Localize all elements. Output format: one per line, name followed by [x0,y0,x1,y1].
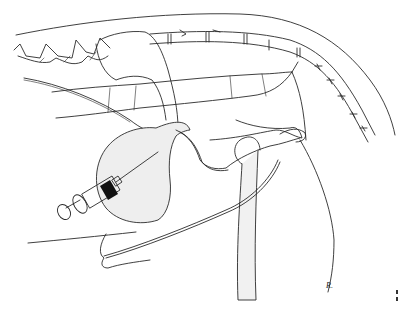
bladder [96,122,190,222]
artist-signature: R. [326,281,333,290]
ventral-wall [28,232,136,243]
pelvis-outline [176,130,300,169]
abdominal-curve [300,140,334,292]
femur-shaft [237,150,258,300]
spiny-vertebrae [14,38,110,64]
vertebrae [168,30,367,131]
anatomy-drawing [0,0,401,311]
colon-upper [52,72,292,92]
kidney-outline [100,31,178,128]
kidney-inner [96,44,166,120]
illustration-canvas: R. [0,0,401,311]
prepuce [100,234,150,268]
colon-end [292,62,306,140]
edge-marks [396,290,399,308]
spine-upper-line [150,32,375,135]
ureter [24,78,164,136]
